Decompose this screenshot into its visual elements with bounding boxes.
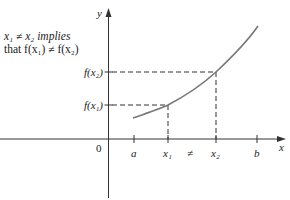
caption-line-2: that f(x₁) ≠ f(x₂) (4, 43, 79, 56)
tick-label-a: a (131, 147, 137, 159)
y-axis-label: y (96, 7, 102, 19)
y-axis-arrow-icon (106, 8, 112, 17)
one-to-one-diagram: y x 0 a x₁ ≠ x₂ b f(x₂) f(x₁) x₁ ≠ x₂ im… (0, 0, 290, 200)
caption-line-1: x₁ ≠ x₂ implies (3, 30, 71, 43)
tick-label-x1: x₁ (162, 147, 172, 159)
x-axis-label: x (278, 141, 284, 153)
tick-label-b: b (254, 147, 260, 159)
origin-label: 0 (96, 142, 102, 154)
tick-label-x2: x₂ (210, 147, 220, 159)
tick-label-fx1: f(x₁) (84, 99, 103, 112)
tick-label-neq: ≠ (187, 147, 193, 159)
tick-label-fx2: f(x₂) (84, 66, 103, 79)
